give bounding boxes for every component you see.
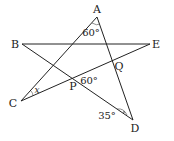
- point-label-c: C: [9, 97, 17, 110]
- point-label-a: A: [92, 3, 102, 16]
- angle-arc-c: [31, 91, 33, 96]
- angle-label-p: 60°: [80, 75, 98, 86]
- segment-ce: [21, 44, 150, 101]
- angle-label-x: x: [34, 85, 39, 95]
- point-label-e: E: [152, 38, 160, 51]
- point-label-p: P: [69, 80, 77, 93]
- point-label-d: D: [131, 122, 140, 135]
- point-label-q: Q: [114, 60, 123, 73]
- angle-mark-dot-d: [123, 111, 125, 113]
- star-diagram: A B E C D P Q 60° 60° 35° x: [0, 0, 174, 141]
- angle-label-a: 60°: [82, 27, 100, 38]
- angle-label-d: 35°: [98, 110, 116, 121]
- point-label-b: B: [11, 38, 19, 51]
